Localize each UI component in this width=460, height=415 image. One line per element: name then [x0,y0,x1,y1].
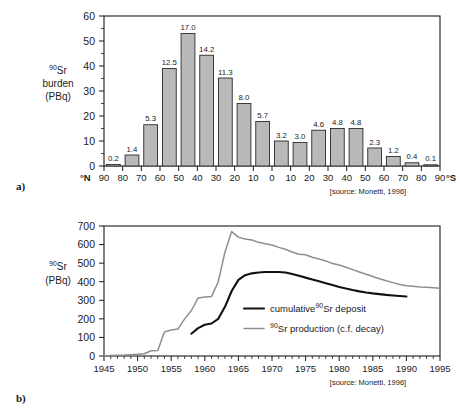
bar [293,143,307,167]
y-tick-label-a: 60 [83,10,95,22]
y-tick-label-b: 400 [77,276,95,288]
x-tick-label-b: 1975 [295,363,316,374]
bar-value-label: 4.8 [332,118,343,127]
x-tick-label-a: 40 [192,172,203,183]
panel-b-label: b) [16,392,26,404]
panel-a-label: a) [16,180,25,192]
x-tick-label-a: 60 [155,172,166,183]
bar-value-label: 5.3 [145,114,156,123]
x-tick-label-b: 1965 [228,363,249,374]
x-tick-label-a: 80 [117,172,128,183]
x-tick-label-a: 0 [269,172,274,183]
bar-value-label: 4.8 [351,118,362,127]
x-tick-label-a: 70 [136,172,147,183]
legend-label-production: 90Sr production (c.f. decay) [270,322,384,334]
x-tick-label-b: 1950 [127,363,148,374]
x-tick-label-a: 10 [285,172,296,183]
source-note-b: [source: Monetti, 1996] [330,378,406,387]
y-tick-label-a: 30 [83,85,95,97]
y-axis-title-a-line2: burden [42,78,73,89]
x-tick-label-b: 1990 [396,363,417,374]
bar-value-label: 5.7 [257,111,268,120]
panel-a-plot: 01020304050600.21.45.312.517.014.211.38.… [42,10,456,196]
bar-value-label: 3.0 [295,132,307,141]
panel-b-plot: 0100200300400500600700194519501955196019… [45,220,450,387]
x-tick-label-a: 30 [323,172,334,183]
bar-value-label: 11.3 [218,68,233,77]
x-tick-label-b: 1960 [194,363,215,374]
x-tick-label-a: 70 [397,172,408,183]
bar [256,122,270,167]
y-tick-label-a: 0 [89,160,95,172]
y-tick-label-b: 200 [77,313,95,325]
bar-value-label: 0.4 [407,152,419,161]
bar [312,130,326,166]
x-tick-label-a: 50 [360,172,371,183]
x-tick-label-a: 50 [173,172,184,183]
bar-value-label: 0.2 [108,154,119,163]
bar [125,155,139,166]
bar [368,148,382,166]
bar-value-label: 3.2 [276,131,287,140]
x-tick-label-b: 1995 [429,363,450,374]
bar-value-label: 2.3 [369,138,380,147]
x-tick-label-a: 90 [99,172,110,183]
bar [274,141,288,166]
x-axis-label-north: °N [80,172,91,183]
y-tick-label-b: 0 [89,350,95,362]
bar-value-label: 0.1 [425,154,436,163]
bar-value-label: 12.5 [162,58,178,67]
bar [237,104,251,167]
x-tick-label-a: 40 [341,172,352,183]
x-tick-label-b: 1970 [261,363,282,374]
bar [349,129,363,167]
bar [144,125,158,166]
y-axis-title-b-line2: (PBq) [45,275,71,286]
y-tick-label-b: 700 [77,220,95,232]
figure-sr90-distribution: 01020304050600.21.45.312.517.014.211.38.… [0,0,460,415]
bar [218,78,232,166]
y-tick-label-a: 10 [83,135,95,147]
bar-value-label: 14.2 [199,45,214,54]
bar-value-label: 17.0 [180,23,196,32]
y-tick-label-b: 500 [77,257,95,269]
x-tick-label-a: 10 [248,172,259,183]
bar [162,69,176,167]
y-axis-title-a-line3: (PBq) [45,91,71,102]
y-tick-label-a: 40 [83,60,95,72]
bar-value-label: 4.6 [313,120,324,129]
y-tick-label-b: 100 [77,331,95,343]
x-tick-label-a: 20 [304,172,315,183]
x-tick-label-b: 1985 [362,363,383,374]
bar-value-label: 1.4 [127,145,139,154]
bar [181,34,195,167]
x-tick-label-a: 90 [435,172,446,183]
x-tick-label-a: 60 [379,172,390,183]
x-tick-label-b: 1955 [161,363,182,374]
legend-b: cumulative90Sr deposit90Sr production (c… [244,302,384,334]
x-tick-label-a: 20 [229,172,240,183]
source-note-a: [source: Monetti, 1996] [330,187,406,196]
bar [424,165,438,166]
x-tick-label-a: 30 [211,172,222,183]
y-axis-title-b: 90Sr [49,260,67,272]
panel-a-bar-chart: 01020304050600.21.45.312.517.014.211.38.… [0,0,460,208]
x-tick-label-b: 1945 [93,363,114,374]
x-tick-label-a: 80 [416,172,427,183]
panel-b-line-chart: 0100200300400500600700194519501955196019… [0,208,460,413]
x-tick-label-b: 1980 [329,363,350,374]
y-tick-label-b: 600 [77,238,95,250]
bar-value-label: 1.2 [388,146,399,155]
y-tick-label-a: 50 [83,35,95,47]
bar [405,163,419,166]
series-line-production [104,232,440,356]
bar [200,55,214,166]
bar [386,157,400,167]
bar-value-label: 8.0 [239,93,251,102]
y-tick-label-b: 300 [77,294,95,306]
bar [106,165,120,167]
x-axis-label-south: °S [446,172,456,183]
legend-label-cumulative-deposit: cumulative90Sr deposit [270,302,366,314]
y-tick-label-a: 20 [83,110,95,122]
bar [330,129,344,167]
